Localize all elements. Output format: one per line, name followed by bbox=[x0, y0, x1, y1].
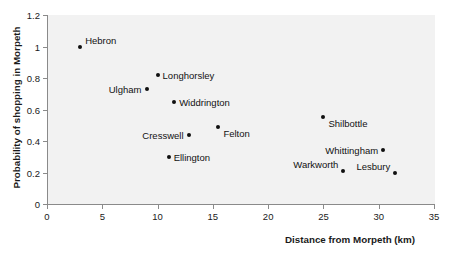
data-point-shilbottle[interactable] bbox=[321, 115, 325, 119]
data-point-lesbury[interactable] bbox=[393, 171, 397, 175]
x-tick-label: 10 bbox=[152, 211, 163, 222]
x-axis-title: Distance from Morpeth (km) bbox=[255, 234, 445, 245]
x-tick-mark bbox=[158, 205, 159, 209]
x-tick-mark bbox=[434, 205, 435, 209]
data-point-label-ellington: Ellington bbox=[174, 151, 210, 162]
data-point-ulgham[interactable] bbox=[145, 87, 149, 91]
x-tick-mark bbox=[323, 205, 324, 209]
x-tick-mark bbox=[47, 205, 48, 209]
data-point-warkworth[interactable] bbox=[341, 169, 345, 173]
scatter-chart-figure: 05101520253035 00.20.40.60.811.2 HebronL… bbox=[0, 0, 449, 254]
data-point-label-longhorsley: Longhorsley bbox=[163, 69, 215, 80]
data-point-label-hebron: Hebron bbox=[85, 34, 116, 45]
y-tick-label: 0 bbox=[35, 199, 40, 210]
data-point-whittingham[interactable] bbox=[381, 148, 385, 152]
x-tick-mark bbox=[213, 205, 214, 209]
y-tick-mark bbox=[43, 204, 47, 205]
x-tick-label: 35 bbox=[429, 211, 440, 222]
data-point-label-ulgham: Ulgham bbox=[109, 84, 142, 95]
y-tick-mark bbox=[43, 47, 47, 48]
x-tick-mark bbox=[379, 205, 380, 209]
y-tick-label: 0.6 bbox=[27, 104, 40, 115]
x-tick-label: 0 bbox=[44, 211, 49, 222]
data-point-label-shilbottle: Shilbottle bbox=[328, 118, 367, 129]
data-point-label-whittingham: Whittingham bbox=[325, 145, 378, 156]
x-tick-label: 15 bbox=[208, 211, 219, 222]
x-tick-mark bbox=[102, 205, 103, 209]
y-axis-title: Probability of shopping in Morpeth bbox=[11, 13, 22, 203]
y-tick-mark bbox=[43, 78, 47, 79]
data-point-label-lesbury: Lesbury bbox=[356, 161, 390, 172]
x-tick-mark bbox=[268, 205, 269, 209]
data-point-hebron[interactable] bbox=[78, 45, 82, 49]
y-tick-mark bbox=[43, 110, 47, 111]
x-tick-label: 30 bbox=[373, 211, 384, 222]
y-tick-mark bbox=[43, 173, 47, 174]
y-tick-mark bbox=[43, 15, 47, 16]
y-tick-mark bbox=[43, 141, 47, 142]
x-tick-label: 25 bbox=[318, 211, 329, 222]
y-tick-label: 1.2 bbox=[27, 10, 40, 21]
data-point-label-warkworth: Warkworth bbox=[293, 158, 338, 169]
data-point-label-widdrington: Widdrington bbox=[179, 96, 230, 107]
data-point-ellington[interactable] bbox=[167, 155, 171, 159]
x-tick-label: 5 bbox=[100, 211, 105, 222]
data-point-cresswell[interactable] bbox=[187, 133, 191, 137]
data-point-label-felton: Felton bbox=[223, 127, 249, 138]
y-tick-label: 0.4 bbox=[27, 136, 40, 147]
y-tick-label: 1 bbox=[35, 41, 40, 52]
x-tick-label: 20 bbox=[263, 211, 274, 222]
data-point-label-cresswell: Cresswell bbox=[142, 129, 183, 140]
data-point-widdrington[interactable] bbox=[172, 100, 176, 104]
data-point-felton[interactable] bbox=[216, 125, 220, 129]
y-tick-label: 0.2 bbox=[27, 167, 40, 178]
y-tick-label: 0.8 bbox=[27, 73, 40, 84]
data-point-longhorsley[interactable] bbox=[156, 73, 160, 77]
